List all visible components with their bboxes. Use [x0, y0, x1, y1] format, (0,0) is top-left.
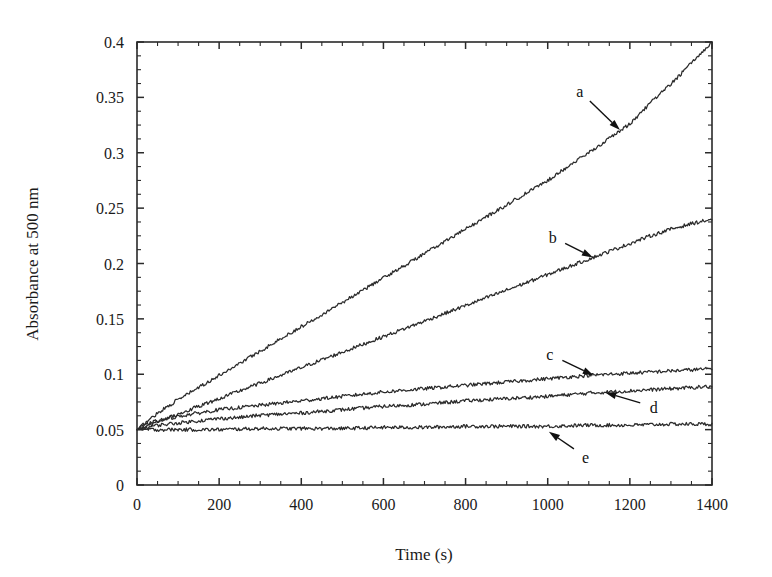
x-tick-label: 1400 [696, 496, 728, 513]
data-curve-e [137, 422, 712, 431]
curve-label-e: e [582, 449, 589, 466]
absorbance-vs-time-chart: 020040060080010001200140000.050.10.150.2… [0, 0, 772, 577]
x-tick-label: 1200 [614, 496, 646, 513]
data-curves-layer [137, 42, 712, 431]
curve-label-b: b [549, 229, 557, 246]
x-tick-label: 200 [207, 496, 231, 513]
y-tick-label: 0.2 [104, 256, 124, 273]
annotation-arrow-line-a [590, 101, 612, 122]
y-tick-label: 0.4 [104, 34, 124, 51]
y-tick-label: 0.3 [104, 145, 124, 162]
x-tick-label: 800 [454, 496, 478, 513]
y-tick-label: 0 [116, 477, 124, 494]
annotation-arrow-head-e [549, 432, 560, 441]
annotation-arrow-line-b [565, 243, 583, 252]
x-tick-label: 400 [289, 496, 313, 513]
annotation-arrow-line-e [558, 438, 574, 449]
y-tick-label: 0.05 [96, 422, 124, 439]
x-tick-label: 0 [133, 496, 141, 513]
curve-label-c: c [546, 346, 553, 363]
curve-label-d: d [650, 399, 658, 416]
figure-container: 020040060080010001200140000.050.10.150.2… [0, 0, 772, 577]
y-tick-label: 0.1 [104, 366, 124, 383]
annotation-arrow-head-d [605, 392, 617, 399]
tick-labels-layer: 020040060080010001200140000.050.10.150.2… [96, 34, 728, 513]
y-tick-label: 0.35 [96, 89, 124, 106]
curve-label-a: a [576, 83, 583, 100]
annotation-arrow-head-c [582, 368, 593, 376]
x-tick-label: 600 [371, 496, 395, 513]
x-axis-title: Time (s) [395, 545, 452, 564]
annotation-arrow-line-d [616, 396, 640, 403]
curve-annotations-layer: abcde [546, 83, 657, 465]
y-axis-title: Absorbance at 500 nm [23, 187, 42, 340]
data-curve-a [137, 42, 712, 430]
y-tick-label: 0.15 [96, 311, 124, 328]
y-tick-label: 0.25 [96, 200, 124, 217]
data-curve-d [137, 385, 712, 430]
x-tick-label: 1000 [532, 496, 564, 513]
annotation-arrow-head-b [582, 249, 593, 257]
annotation-arrow-line-c [562, 360, 583, 370]
